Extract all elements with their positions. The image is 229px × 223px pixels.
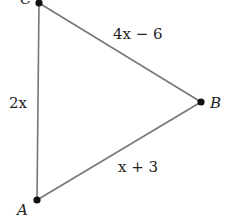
side-ab [37,102,201,200]
vertex-a-point [33,196,40,203]
side-ac-label: 2x [9,94,28,112]
side-cb [39,3,201,102]
triangle-diagram: C B A 2x 4x − 6 x + 3 [0,0,229,223]
vertex-b-point [197,98,204,105]
side-ab-label: x + 3 [118,158,158,176]
vertex-c-label: C [20,0,32,8]
vertex-c-point [35,0,42,7]
side-ac [37,3,39,200]
side-cb-label: 4x − 6 [113,25,163,43]
vertex-a-label: A [15,201,28,219]
vertex-b-label: B [209,94,221,112]
